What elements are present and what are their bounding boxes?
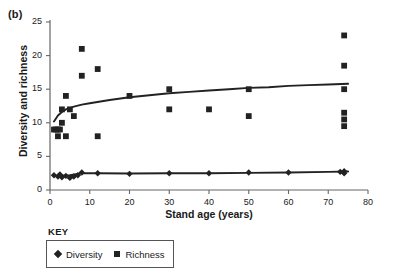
richness-point [63,93,69,99]
legend-item-diversity: Diversity [55,249,102,260]
richness-point [95,66,101,72]
data-points [51,33,348,182]
richness-point [127,93,133,99]
richness-point [341,63,347,69]
diversity-point [126,171,132,177]
richness-point [166,86,172,92]
legend-item-richness: Richness [114,249,164,260]
richness-point [341,117,347,123]
legend: Diversity Richness [46,240,174,268]
richness-point [59,120,65,126]
x-tick-label: 40 [198,197,220,207]
legend-label-richness: Richness [125,249,164,260]
richness-point [71,113,77,119]
richness-point [341,123,347,129]
y-tick-label: 5 [24,150,42,160]
diversity-point [246,169,252,175]
richness-point [67,106,73,112]
diversity-point [285,169,291,175]
richness-point [57,127,63,133]
richness-point [79,73,85,79]
diversity-point [206,170,212,176]
x-tick-label: 80 [357,197,379,207]
diamond-marker-icon [54,250,62,258]
figure-panel: (b) Diversity and richness Stand age (ye… [0,0,393,276]
richness-point [341,86,347,92]
richness-point [79,46,85,52]
x-tick-label: 20 [119,197,141,207]
legend-title: KEY [48,226,68,237]
richness-point [341,110,347,116]
richness-point [246,86,252,92]
richness-point [206,106,212,112]
fit-curve-richness [54,84,348,122]
richness-point [341,33,347,39]
square-marker-icon [114,251,120,257]
x-tick-label: 60 [278,197,300,207]
y-tick-label: 10 [24,117,42,127]
x-tick-label: 10 [79,197,101,207]
panel-label: (b) [8,8,23,20]
x-tick-label: 0 [39,197,61,207]
richness-point [95,133,101,139]
x-tick-label: 30 [158,197,180,207]
y-tick-label: 15 [24,83,42,93]
richness-point [246,113,252,119]
richness-point [55,133,61,139]
x-tick-label: 50 [238,197,260,207]
richness-point [63,133,69,139]
richness-point [59,106,65,112]
y-tick-label: 20 [24,50,42,60]
y-tick-label: 0 [24,184,42,194]
fit-curves [54,84,348,176]
y-tick-label: 25 [24,16,42,26]
diversity-point [95,170,101,176]
richness-point [166,106,172,112]
x-axis-title: Stand age (years) [50,208,368,220]
x-tick-label: 70 [317,197,339,207]
legend-label-diversity: Diversity [66,249,102,260]
diversity-point [166,170,172,176]
